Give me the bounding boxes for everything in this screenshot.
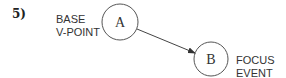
diagram-canvas: A B	[0, 0, 286, 78]
node-b: B	[194, 42, 228, 76]
edge-arrow-a-to-b	[137, 29, 195, 53]
node-a-letter: A	[115, 15, 126, 30]
node-a: A	[102, 4, 138, 40]
node-b-letter: B	[206, 52, 215, 67]
